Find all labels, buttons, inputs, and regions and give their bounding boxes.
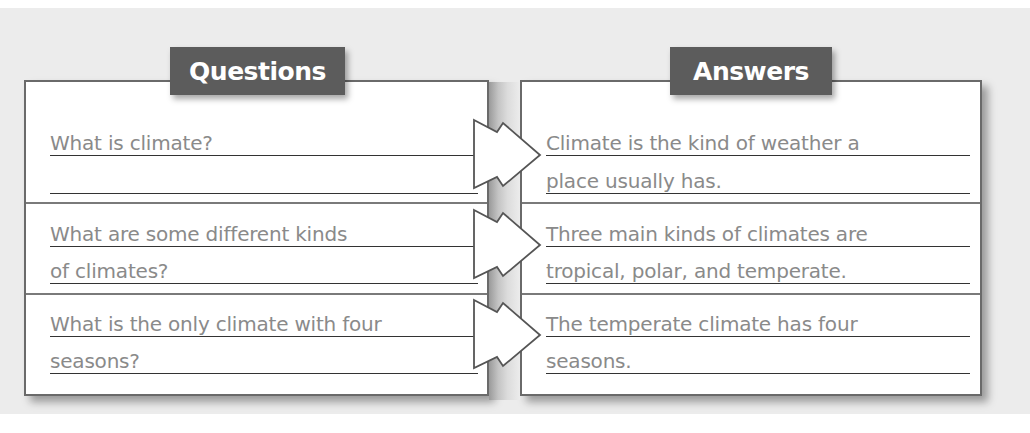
answer-row-2: Three main kinds of climates are tropica… <box>522 204 980 295</box>
questions-box: What is climate? What are some different… <box>24 80 489 396</box>
questions-heading: Questions <box>170 47 345 95</box>
question-2-line-2: of climates? <box>50 259 478 284</box>
question-3-line-1: What is the only climate with four <box>50 312 478 337</box>
arrow-right-icon <box>470 298 546 370</box>
question-1-line-2 <box>50 169 478 194</box>
answers-heading: Answers <box>670 47 832 95</box>
answer-2-line-2: tropical, polar, and temperate. <box>546 259 970 284</box>
arrow-right-icon <box>470 118 546 190</box>
question-2-line-1: What are some different kinds <box>50 222 478 247</box>
answer-3-line-1: The temperate climate has four <box>546 312 970 337</box>
answer-2-line-1: Three main kinds of climates are <box>546 222 970 247</box>
answer-row-3: The temperate climate has four seasons. <box>522 295 980 394</box>
arrow-right-icon <box>470 208 546 280</box>
answer-1-line-1: Climate is the kind of weather a <box>546 131 970 156</box>
question-1-line-1: What is climate? <box>50 131 478 156</box>
answer-row-1: Climate is the kind of weather a place u… <box>522 82 980 204</box>
question-row-1: What is climate? <box>26 82 487 204</box>
answers-box: Climate is the kind of weather a place u… <box>520 80 982 396</box>
answer-1-line-2: place usually has. <box>546 169 970 194</box>
answer-3-line-2: seasons. <box>546 349 970 374</box>
question-3-line-2: seasons? <box>50 349 478 374</box>
question-row-2: What are some different kinds of climate… <box>26 204 487 295</box>
question-row-3: What is the only climate with four seaso… <box>26 295 487 394</box>
